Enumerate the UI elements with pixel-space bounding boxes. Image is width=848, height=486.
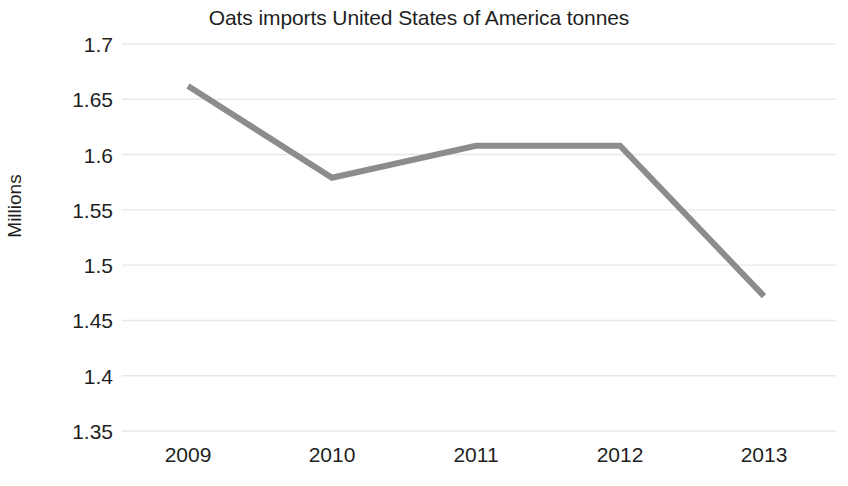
y-tick-label: 1.6 xyxy=(17,145,113,166)
x-tick-label: 2013 xyxy=(709,444,819,465)
x-tick-label: 2011 xyxy=(421,444,531,465)
y-tick-label: 1.65 xyxy=(17,89,113,110)
y-tick-label: 1.35 xyxy=(17,421,113,442)
y-tick-label: 1.7 xyxy=(17,34,113,55)
gridlines-group xyxy=(122,44,836,431)
y-tick-label: 1.4 xyxy=(17,366,113,387)
y-tick-label: 1.5 xyxy=(17,255,113,276)
plot-area xyxy=(0,0,848,486)
line-chart: Oats imports United States of America to… xyxy=(0,0,848,486)
x-tick-label: 2012 xyxy=(565,444,675,465)
x-tick-label: 2009 xyxy=(133,444,243,465)
y-tick-label: 1.45 xyxy=(17,310,113,331)
x-tick-label: 2010 xyxy=(277,444,387,465)
y-tick-label: 1.55 xyxy=(17,200,113,221)
